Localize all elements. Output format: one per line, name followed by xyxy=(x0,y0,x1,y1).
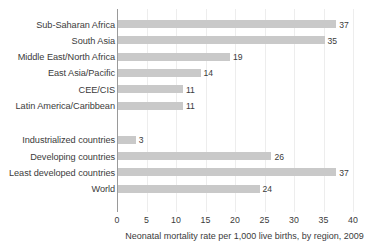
bar xyxy=(118,36,325,44)
bar-value-label: 14 xyxy=(204,69,214,77)
category-label: World xyxy=(0,184,115,194)
bar xyxy=(118,53,230,61)
bar-value-label: 11 xyxy=(186,102,195,110)
bar-value-label: 37 xyxy=(339,169,349,177)
gridline-40 xyxy=(353,9,354,212)
category-label: Sub-Saharan Africa xyxy=(0,20,115,30)
bar-value-label: 35 xyxy=(328,37,338,45)
bar xyxy=(118,136,136,144)
category-label: CEE/CIS xyxy=(0,85,115,95)
bar-value-label: 19 xyxy=(233,53,243,61)
category-label: Least developed countries xyxy=(0,168,115,178)
x-tick-40: 40 xyxy=(341,215,365,225)
bar-value-label: 26 xyxy=(274,153,284,161)
bar xyxy=(118,102,183,110)
category-label: Middle East/North Africa xyxy=(0,52,115,62)
bar-value-label: 11 xyxy=(186,86,195,94)
category-label: South Asia xyxy=(0,36,115,46)
bar xyxy=(118,69,201,77)
bar-value-label: 24 xyxy=(263,185,273,193)
x-tick-30: 30 xyxy=(282,215,306,225)
x-tick-15: 15 xyxy=(194,215,218,225)
x-tick-35: 35 xyxy=(312,215,336,225)
x-tick-0: 0 xyxy=(105,215,129,225)
bar xyxy=(118,20,336,28)
bar xyxy=(118,185,260,193)
x-tick-5: 5 xyxy=(135,215,159,225)
bar-value-label: 37 xyxy=(339,21,349,29)
category-label: Industrialized countries xyxy=(0,135,115,145)
x-tick-20: 20 xyxy=(223,215,247,225)
x-tick-10: 10 xyxy=(164,215,188,225)
x-axis-caption-text: Neonatal mortality rate per 1,000 live b… xyxy=(3,231,364,241)
plot-area: 3735191411113263724 xyxy=(117,9,354,212)
bar xyxy=(118,152,271,160)
bar-chart: Sub-Saharan AfricaSouth AsiaMiddle East/… xyxy=(0,0,367,250)
category-label: Developing countries xyxy=(0,152,115,162)
x-tick-25: 25 xyxy=(253,215,277,225)
category-label: Latin America/Caribbean xyxy=(0,101,115,111)
category-label: East Asia/Pacific xyxy=(0,68,115,78)
bar-value-label: 3 xyxy=(139,136,144,144)
x-axis-caption: Neonatal mortality rate per 1,000 live b… xyxy=(0,231,367,241)
bar xyxy=(118,168,336,176)
bar xyxy=(118,85,183,93)
